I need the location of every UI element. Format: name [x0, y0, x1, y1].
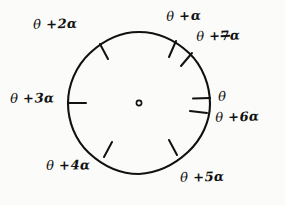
label-theta-plus-7alpha: θ +7α	[196, 28, 240, 43]
alpha-symbol: α	[230, 27, 241, 42]
tick-theta-plus-7a	[181, 53, 192, 66]
label-theta-symbol: θ	[218, 89, 226, 104]
theta-symbol: θ	[180, 170, 188, 185]
theta-symbol: θ	[10, 91, 18, 106]
plus-symbol: +	[22, 91, 34, 106]
alpha-symbol: α	[190, 7, 201, 22]
coefficient: 2	[57, 16, 67, 31]
theta-symbol: θ	[196, 29, 205, 44]
alpha-symbol: α	[214, 169, 225, 184]
label-theta: θ	[218, 90, 226, 103]
plus-symbol: +	[45, 16, 57, 31]
theta-symbol: θ	[33, 17, 41, 32]
label-theta-plus-5alpha: θ +5α	[180, 170, 224, 184]
tick-theta-plus-2a	[100, 44, 108, 59]
theta-symbol: θ	[46, 158, 54, 173]
label-theta-plus-alpha: θ +α	[166, 8, 201, 23]
alpha-symbol: α	[44, 90, 54, 105]
plus-symbol: +	[192, 169, 204, 184]
tick-theta-plus-4a	[104, 142, 112, 157]
coefficient: 5	[204, 169, 214, 184]
label-theta-plus-4alpha: θ +4α	[46, 158, 90, 172]
tick-theta-plus-1a	[169, 41, 176, 57]
coefficient: 6	[239, 109, 249, 124]
label-theta-plus-6alpha: θ +6α	[215, 109, 259, 124]
tick-theta-plus-5a	[169, 140, 177, 155]
tick-theta-plus-6a	[190, 111, 207, 113]
alpha-symbol: α	[80, 157, 90, 172]
figure-canvas: θ θ +α θ +2α θ +3α θ +4α θ +5α θ +6α θ +…	[0, 0, 285, 205]
label-theta-plus-3alpha: θ +3α	[10, 91, 54, 105]
tick-theta	[193, 98, 210, 99]
label-theta-plus-2alpha: θ +2α	[33, 17, 77, 31]
circle-outline	[68, 32, 210, 174]
center-dot	[136, 100, 141, 105]
tick-marks	[68, 41, 210, 157]
theta-symbol: θ	[166, 9, 175, 24]
alpha-symbol: α	[67, 16, 78, 31]
coefficient: 3	[34, 90, 44, 105]
alpha-symbol: α	[249, 108, 260, 123]
plus-symbol: +	[58, 158, 70, 173]
coefficient: 4	[70, 157, 80, 172]
theta-symbol: θ	[215, 110, 224, 125]
coefficient: 7	[220, 28, 230, 43]
